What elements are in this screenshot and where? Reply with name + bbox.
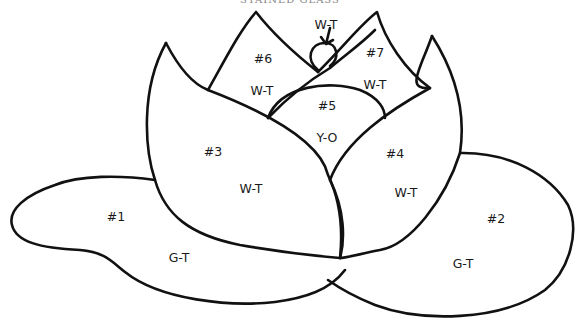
piece-6-color: W-T: [251, 83, 274, 98]
piece-7-id: #7: [366, 45, 384, 60]
lotus-pattern-diagram: STAINED GLASS W-T #6 W-T #7 W-T #5 Y-O #…: [0, 0, 580, 327]
piece-5-id: #5: [318, 98, 336, 113]
piece-6-id: #6: [254, 51, 272, 66]
piece-1-color: G-T: [169, 250, 190, 265]
piece-1-id: #1: [107, 209, 125, 224]
piece-7-color: W-T: [364, 77, 387, 92]
piece-2-color: G-T: [453, 256, 474, 271]
petal-4-left-edge: [330, 180, 343, 258]
piece-3-id: #3: [204, 144, 222, 159]
piece-4-color: W-T: [395, 185, 418, 200]
piece-2-id: #2: [487, 211, 505, 226]
piece-3-color: W-T: [240, 181, 263, 196]
piece-5-color: Y-O: [317, 130, 338, 145]
petal-3-outline: [147, 43, 340, 258]
petal-3-inner-edge: [166, 43, 341, 258]
leaf-1-outline: [11, 177, 345, 304]
piece-4-id: #4: [386, 146, 404, 161]
bud-label: W-T: [315, 17, 338, 32]
pattern-lines: [0, 0, 580, 327]
